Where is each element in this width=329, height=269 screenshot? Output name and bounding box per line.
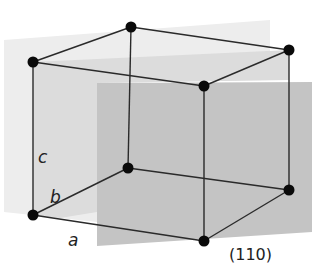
atom-top-back-left bbox=[126, 22, 137, 33]
atom-top-front-left bbox=[28, 57, 39, 68]
axis-label-b: b bbox=[50, 187, 61, 207]
axis-label-a: a bbox=[68, 230, 78, 250]
atom-bottom-front-right bbox=[199, 236, 210, 247]
unit-cell-diagram: c b a (110) bbox=[0, 0, 329, 269]
atom-top-front-right bbox=[199, 81, 210, 92]
atom-top-back-right bbox=[284, 45, 295, 56]
axis-label-c: c bbox=[38, 147, 48, 167]
atom-bottom-front-left bbox=[28, 210, 39, 221]
plane-label: (110) bbox=[229, 245, 272, 264]
atom-bottom-back-left bbox=[123, 163, 134, 174]
atom-bottom-back-right bbox=[284, 185, 295, 196]
